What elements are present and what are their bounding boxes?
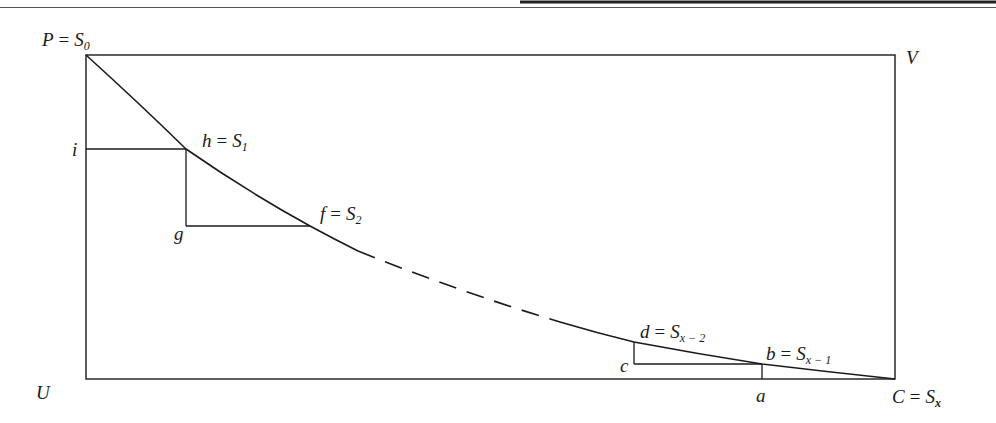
- label-eq: =: [655, 321, 666, 342]
- curve-solid-upper: [86, 55, 358, 251]
- label-sym: S: [232, 130, 242, 151]
- label-sym: S: [925, 386, 935, 407]
- label-var: a: [756, 385, 766, 406]
- label-var: h: [202, 130, 212, 151]
- label-sub: 0: [84, 39, 90, 53]
- label-var: P: [42, 29, 54, 50]
- label-eq: =: [781, 343, 792, 364]
- label-eq: =: [330, 203, 341, 224]
- label-sub: x − 2: [680, 331, 705, 345]
- staircase-curve-diagram: [0, 0, 996, 423]
- label-sub: x: [935, 396, 941, 410]
- label-V: V: [906, 48, 918, 67]
- label-c: c: [620, 356, 628, 375]
- label-h-S1: h=S1: [202, 131, 248, 153]
- label-eq: =: [59, 29, 70, 50]
- label-d-Sx-2: d=Sx − 2: [640, 322, 705, 344]
- label-var: f: [320, 203, 325, 224]
- curve-dashed-middle: [358, 251, 560, 322]
- label-sub: 2: [356, 213, 362, 227]
- label-var: U: [36, 382, 50, 403]
- label-a: a: [756, 386, 766, 405]
- bounding-rectangle: [86, 55, 895, 379]
- label-var: i: [72, 139, 77, 160]
- label-i: i: [72, 140, 77, 159]
- label-var: d: [640, 321, 650, 342]
- label-sym: S: [346, 203, 356, 224]
- label-var: b: [766, 343, 776, 364]
- label-g: g: [174, 224, 184, 243]
- label-sym: S: [670, 321, 680, 342]
- label-sub: x − 1: [806, 353, 831, 367]
- label-f-S2: f=S2: [320, 204, 362, 226]
- label-var: g: [174, 223, 184, 244]
- label-C-Sx: C=Sx: [892, 387, 941, 409]
- label-P-S0: P=S0: [42, 30, 90, 52]
- label-var: V: [906, 47, 918, 68]
- label-eq: =: [910, 386, 921, 407]
- label-var: c: [620, 355, 628, 376]
- label-var: C: [892, 386, 905, 407]
- curve-solid-lower: [560, 322, 895, 379]
- label-U: U: [36, 383, 50, 402]
- label-sym: S: [796, 343, 806, 364]
- label-sub: 1: [242, 140, 248, 154]
- label-eq: =: [217, 130, 228, 151]
- label-sym: S: [74, 29, 84, 50]
- label-b-Sx-1: b=Sx − 1: [766, 344, 831, 366]
